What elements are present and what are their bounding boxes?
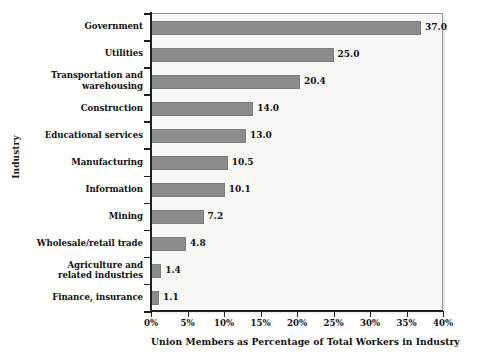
x-axis-tick-label: 15% [250,318,270,328]
y-axis-tick [144,121,151,123]
category-label: Educational services [45,130,143,141]
x-axis-tick-label: 40% [433,318,453,328]
bar [151,75,300,89]
category-label-row: Wholesale/retail trade [14,230,143,257]
y-axis-tick [144,284,151,286]
x-axis-tick [224,311,225,317]
bar [151,129,246,143]
y-axis-tick [144,257,151,259]
x-axis-tick [188,311,189,317]
x-axis-tick [370,311,371,317]
x-axis-tick-label: 5% [180,318,194,328]
bars-container: 37.025.020.414.013.010.510.17.24.81.41.1 [151,14,442,310]
x-axis-tick [261,311,262,317]
category-label-row: Information [14,176,143,203]
bar [151,183,225,197]
bar-value-label: 10.1 [229,184,251,194]
x-axis-tick-label: 0% [144,318,158,328]
category-label: Information [85,184,143,195]
category-label-row: Utilities [14,40,143,67]
category-label: Wholesale/retail trade [37,238,143,249]
bar-value-label: 37.0 [425,22,447,32]
bar-value-label: 1.1 [163,292,179,302]
category-label-row: Mining [14,203,143,230]
y-axis-tick [144,13,151,15]
bar [151,102,253,116]
category-label-row: Manufacturing [14,148,143,175]
y-axis-tick [144,230,151,232]
category-label-row: Construction [14,94,143,121]
y-axis-tick [144,176,151,178]
bar-value-label: 14.0 [257,103,279,113]
bar [151,237,186,251]
y-axis-tick [144,148,151,150]
x-axis-tick [297,311,298,317]
category-label: Manufacturing [71,157,143,168]
category-label: Government [84,21,143,32]
category-label: Finance, insurance [52,292,143,303]
category-label: Mining [109,211,143,222]
category-label: Transportation and warehousing [51,70,143,91]
bar [151,21,421,35]
x-axis-tick-label: 10% [214,318,234,328]
x-axis-tick-label: 35% [396,318,416,328]
y-axis-spine [150,12,152,312]
bar [151,264,161,278]
category-label-row: Government [14,13,143,40]
y-axis-tick [144,311,151,313]
bar-value-label: 13.0 [250,130,272,140]
y-axis-tick [144,94,151,96]
category-label-row: Finance, insurance [14,284,143,311]
x-axis-tick-label: 25% [323,318,343,328]
bar-value-label: 1.4 [165,265,181,275]
bar [151,291,159,305]
category-label-row: Agriculture and related industries [14,257,143,284]
y-axis-tick [144,203,151,205]
bar-value-label: 7.2 [208,211,224,221]
category-label: Utilities [105,48,143,59]
x-axis-tick-label: 20% [287,318,307,328]
plot-area: 37.025.020.414.013.010.510.17.24.81.41.1 [151,13,443,311]
category-label-row: Educational services [14,121,143,148]
bar [151,156,228,170]
bar-value-label: 20.4 [304,76,326,86]
x-axis-tick [407,311,408,317]
x-axis-tick [334,311,335,317]
bar [151,48,334,62]
bar [151,210,204,224]
category-label: Construction [81,103,143,114]
category-label-row: Transportation and warehousing [14,67,143,94]
y-axis-tick [144,67,151,69]
bar-value-label: 10.5 [232,157,254,167]
x-axis-tick [443,311,444,317]
x-axis-title: Union Members as Percentage of Total Wor… [151,336,443,347]
x-axis-tick-label: 30% [360,318,380,328]
category-label-column: GovernmentUtilitiesTransportation and wa… [14,13,143,311]
x-axis-tick [151,311,152,317]
bar-value-label: 25.0 [338,49,360,59]
y-axis-tick [144,40,151,42]
bar-chart-figure: Industry GovernmentUtilitiesTransportati… [0,0,482,360]
category-label: Agriculture and related industries [58,260,143,281]
bar-value-label: 4.8 [190,238,206,248]
